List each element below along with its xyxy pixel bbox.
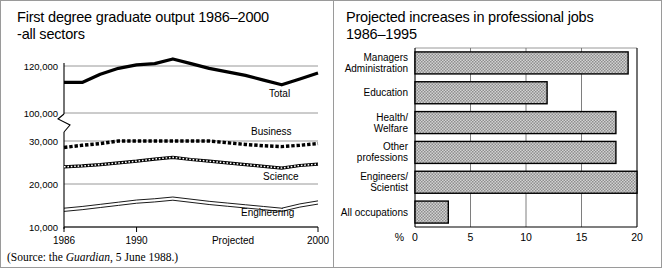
y-axis-label-30,000: 30,000	[29, 136, 58, 147]
bar-category-label-0-line-1: Administration	[345, 63, 408, 74]
science-line-base	[64, 157, 318, 168]
bar-category-label-4-line-0: Engineers/	[360, 171, 408, 182]
bar-category-label-3-line-1: professions	[357, 152, 408, 163]
bar-1	[415, 82, 547, 104]
line-chart-canvas: 10,00020,00030,000100,000120,00019861990…	[1, 1, 333, 267]
projected-annotation: Projected	[212, 235, 254, 246]
y-axis-label-120,000: 120,000	[24, 61, 58, 72]
series-label-business: Business	[251, 126, 292, 137]
panel-line-chart: First degree graduate output 1986–2000 -…	[1, 1, 333, 267]
bar-category-label-2-line-1: Welfare	[374, 123, 409, 134]
bar-category-label-3-line-0: Other	[383, 141, 409, 152]
figure-container: First degree graduate output 1986–2000 -…	[0, 0, 662, 268]
panel-bar-chart: Projected increases in professional jobs…	[333, 1, 661, 267]
x-axis-label-20: 20	[631, 231, 643, 243]
series-label-total: Total	[269, 88, 290, 99]
bar-group-0	[415, 52, 628, 74]
bar-category-label-2-line-0: Health/	[376, 112, 408, 123]
bar-category-label-1: Education	[364, 87, 408, 98]
bar-2	[415, 112, 616, 134]
bar-group-2	[415, 112, 616, 134]
bar-category-label-4-line-1: Scientist	[370, 182, 408, 193]
x-axis-label-5: 5	[468, 231, 474, 243]
axis-break-symbol	[58, 114, 70, 132]
source-suffix: , 5 June 1988.)	[110, 251, 178, 263]
source-prefix: (Source: the	[7, 251, 66, 263]
bar-5	[415, 201, 448, 223]
x-axis-label-0: 0	[412, 231, 418, 243]
y-axis-label-20,000: 20,000	[29, 179, 58, 190]
bar-3	[415, 141, 616, 163]
x-axis-unit-label: %	[395, 231, 404, 243]
x-axis-label-1990: 1990	[125, 235, 148, 246]
source-note: (Source: the Guardian, 5 June 1988.)	[7, 251, 178, 263]
series-business	[64, 141, 318, 147]
bar-chart-canvas: ManagersAdministrationEducationHealth/We…	[334, 1, 662, 267]
bar-group-3	[415, 141, 616, 163]
y-axis-label-10,000: 10,000	[29, 222, 58, 233]
source-publication: Guardian	[66, 251, 110, 263]
bar-group-4	[415, 171, 637, 193]
series-total	[64, 59, 318, 85]
bar-4	[415, 171, 637, 193]
series-label-science: Science	[263, 171, 299, 182]
y-axis-label-100,000: 100,000	[24, 108, 58, 119]
series-science	[64, 157, 318, 168]
bar-category-label-5: All occupations	[341, 207, 408, 218]
x-axis-label-2000: 2000	[307, 235, 330, 246]
bar-category-label-0-line-0: Managers	[364, 52, 408, 63]
series-label-engineering: Engineering	[241, 207, 294, 218]
x-axis-label-1986: 1986	[53, 235, 76, 246]
x-axis-label-15: 15	[576, 231, 588, 243]
bar-group-1	[415, 82, 547, 104]
bar-0	[415, 52, 628, 74]
bar-group-5	[415, 201, 448, 223]
x-axis-label-10: 10	[520, 231, 532, 243]
